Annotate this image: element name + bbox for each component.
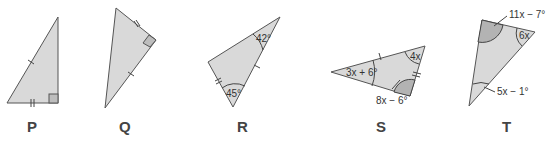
triangle-s: 3x + 6° 4x 8x − 6° S	[331, 46, 425, 135]
angle-label: 6x	[519, 30, 530, 41]
angle-label: 4x	[410, 51, 421, 62]
triangle-q: Q	[105, 8, 156, 135]
angle-label: 42°	[256, 33, 271, 44]
figure-label-s: S	[376, 118, 386, 135]
figure-label-p: P	[27, 118, 37, 135]
angle-label: 5x − 1°	[497, 86, 529, 97]
figure-label-t: T	[502, 118, 511, 135]
triangles-figure: P Q 42° 45° R 3x + 6° 4x 8x − 6° S	[0, 0, 554, 146]
figure-label-q: Q	[119, 118, 131, 135]
angle-label: 11x − 7°	[509, 9, 545, 20]
triangle-r: 42° 45° R	[208, 17, 280, 135]
triangle-t: 11x − 7° 6x 5x − 1° T	[469, 9, 545, 135]
angle-label: 45°	[226, 88, 241, 99]
triangle-p: P	[7, 17, 58, 135]
angle-label: 3x + 6°	[346, 67, 378, 78]
angle-label: 8x − 6°	[376, 95, 408, 106]
right-angle-icon	[49, 94, 58, 103]
figure-label-r: R	[237, 118, 248, 135]
leader-line	[484, 87, 495, 92]
tick-mark	[254, 65, 260, 68]
